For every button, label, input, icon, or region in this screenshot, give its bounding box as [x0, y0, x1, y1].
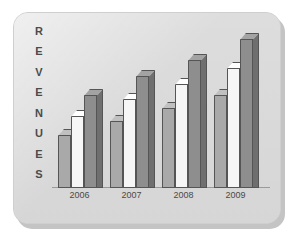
bar — [71, 116, 84, 188]
plot-area — [52, 24, 270, 188]
bar — [58, 135, 71, 188]
bar-face — [227, 68, 240, 188]
bar — [136, 76, 149, 188]
bar — [240, 39, 253, 188]
bar — [84, 95, 97, 188]
bar-face — [188, 60, 201, 188]
y-axis-letter: U — [35, 128, 43, 139]
bar-side — [201, 54, 207, 188]
x-axis-tick-label: 2006 — [69, 190, 89, 200]
y-axis-letter: E — [35, 149, 42, 160]
bar-face — [175, 84, 188, 188]
bar-face — [58, 135, 71, 188]
bar-face — [123, 99, 136, 188]
bar — [214, 95, 227, 188]
y-axis-letter: N — [35, 108, 43, 119]
bar-side — [253, 33, 259, 188]
y-axis-label: R E V E N U E S — [28, 26, 50, 180]
bar-group — [58, 28, 102, 188]
bar-side — [149, 70, 155, 188]
bar — [123, 99, 136, 188]
bar-group — [162, 28, 206, 188]
bar — [110, 121, 123, 188]
bar-group — [110, 28, 154, 188]
bar — [175, 84, 188, 188]
bar-face — [162, 108, 175, 188]
bar — [227, 68, 240, 188]
bar — [162, 108, 175, 188]
bar — [188, 60, 201, 188]
bar-side — [97, 89, 103, 188]
y-axis-letter: E — [35, 87, 42, 98]
y-axis-letter: E — [35, 46, 42, 57]
bar-face — [84, 95, 97, 188]
bar-face — [110, 121, 123, 188]
bar-face — [136, 76, 149, 188]
y-axis-letter: S — [35, 169, 42, 180]
bar-face — [240, 39, 253, 188]
x-axis-tick-label: 2007 — [121, 190, 141, 200]
chart-image: R E V E N U E S 2006200720082009 — [0, 0, 299, 245]
y-axis-letter: V — [35, 67, 42, 78]
y-axis-letter: R — [35, 26, 43, 37]
bar-face — [214, 95, 227, 188]
x-axis-tick-label: 2008 — [173, 190, 193, 200]
x-axis-labels: 2006200720082009 — [52, 190, 270, 204]
x-axis-tick-label: 2009 — [225, 190, 245, 200]
bar-face — [71, 116, 84, 188]
bar-group — [214, 28, 258, 188]
